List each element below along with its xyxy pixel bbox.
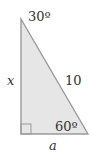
side-x-label: x	[7, 73, 15, 88]
triangle-diagram: 30º 60º x 10 a	[0, 0, 91, 152]
angle-top-label: 30º	[28, 9, 51, 24]
hypotenuse-label: 10	[65, 73, 82, 88]
side-a-label: a	[49, 138, 57, 152]
angle-bottom-right-label: 60º	[55, 119, 78, 134]
